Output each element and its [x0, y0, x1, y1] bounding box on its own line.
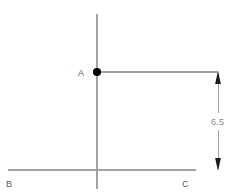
dimension-arrowhead-bottom-icon [215, 158, 221, 171]
dimension-value-label: 6.5 [211, 117, 224, 127]
dimension-arrowhead-top-icon [215, 71, 221, 84]
point-b-label: B [6, 179, 12, 189]
point-c-label: C [182, 179, 189, 189]
point-a-marker [93, 68, 101, 76]
diagram-canvas: A B C 6.5 [0, 0, 232, 196]
geometry-diagram: A B C 6.5 [0, 0, 232, 196]
point-a-label: A [78, 68, 84, 78]
